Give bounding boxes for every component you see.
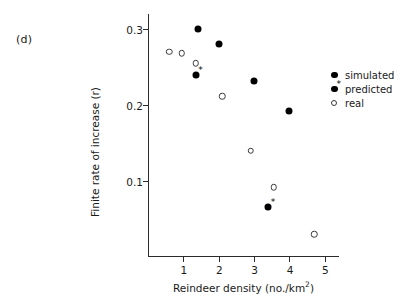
x-tick-mark xyxy=(325,256,326,262)
legend-item-real: real xyxy=(331,97,394,109)
x-tick-label: 2 xyxy=(216,264,223,276)
data-point-simulated xyxy=(286,108,293,115)
x-axis-title: Reindeer density (no./km2) xyxy=(148,280,339,294)
legend-label: predicted xyxy=(345,84,392,95)
legend: simulatedpredictedreal xyxy=(331,69,394,109)
x-tick-label: 3 xyxy=(251,264,258,276)
panel-label: (d) xyxy=(16,33,32,46)
y-tick-mark xyxy=(143,29,149,30)
x-tick-label: 4 xyxy=(287,264,294,276)
data-point-real xyxy=(247,147,254,154)
legend-label: real xyxy=(345,98,364,109)
legend-marker-icon xyxy=(331,86,343,93)
y-tick-0.2: 0.2 xyxy=(148,105,149,106)
filled-circle-asterisk-icon xyxy=(331,86,338,93)
data-point-real xyxy=(166,49,173,56)
data-point-predicted xyxy=(192,71,199,78)
y-tick-label: 0.3 xyxy=(126,24,143,36)
x-tick-4: 4 xyxy=(289,256,290,257)
y-tick-0.1: 0.1 xyxy=(148,181,149,182)
y-tick-mark xyxy=(143,105,149,106)
x-tick-mark xyxy=(183,256,184,262)
data-point-real xyxy=(178,50,185,57)
y-axis-line xyxy=(148,14,149,257)
plot-area: 0.10.20.3 12345 xyxy=(148,14,339,257)
x-tick-mark xyxy=(219,256,220,262)
y-tick-mark xyxy=(143,181,149,182)
x-tick-label: 1 xyxy=(181,264,188,276)
y-tick-label: 0.2 xyxy=(126,100,143,112)
open-circle-icon xyxy=(331,100,337,106)
data-point-real xyxy=(193,60,200,67)
data-point-simulated xyxy=(215,40,222,47)
figure-panel-d: (d) 0.10.20.3 12345 Finite rate of incre… xyxy=(0,0,407,303)
x-tick-5: 5 xyxy=(325,256,326,257)
data-point-simulated xyxy=(194,26,201,33)
x-axis-title-tail: ) xyxy=(310,282,314,294)
legend-item-predicted: predicted xyxy=(331,83,394,95)
data-point-predicted xyxy=(265,203,272,210)
y-axis-title: Finite rate of increase (r) xyxy=(89,87,101,217)
legend-label: simulated xyxy=(345,70,394,81)
x-tick-mark xyxy=(254,256,255,262)
legend-marker-icon xyxy=(331,100,343,106)
x-tick-3: 3 xyxy=(254,256,255,257)
x-tick-1: 1 xyxy=(183,256,184,257)
data-point-simulated xyxy=(251,77,258,84)
data-point-real xyxy=(270,184,277,191)
x-axis-line xyxy=(148,256,339,257)
data-point-real xyxy=(219,93,226,100)
y-tick-0.3: 0.3 xyxy=(148,29,149,30)
data-point-real xyxy=(311,231,318,238)
x-tick-2: 2 xyxy=(219,256,220,257)
y-tick-label: 0.1 xyxy=(126,176,143,188)
x-tick-mark xyxy=(289,256,290,262)
x-axis-title-base: Reindeer density (no./km xyxy=(173,282,305,294)
filled-circle-icon xyxy=(331,72,338,79)
x-tick-label: 5 xyxy=(322,264,329,276)
legend-marker-icon xyxy=(331,72,343,79)
